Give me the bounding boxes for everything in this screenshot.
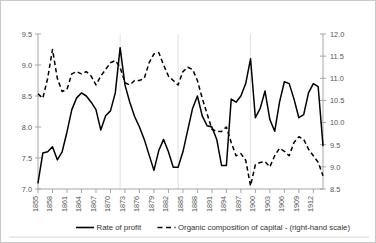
x-axis-tick-label: 1891: [205, 196, 214, 212]
x-axis-tick-label: 1903: [263, 196, 272, 212]
x-axis-tick-label: 1873: [118, 196, 127, 212]
left-axis-tick-label: 8.5: [22, 92, 32, 101]
right-axis-tick-label: 8.5: [330, 185, 340, 194]
x-axis-tick-label: 1879: [147, 196, 156, 212]
x-axis-tick-label: 1894: [219, 196, 228, 212]
right-axis-tick-label: 9.0: [330, 163, 340, 172]
right-axis-tick-label: 9.5: [330, 141, 340, 150]
x-axis-tick-label: 1861: [60, 196, 69, 212]
x-axis-tick-label: 1885: [176, 196, 185, 212]
series-line-organic-composition: [38, 50, 323, 186]
left-axis-tick-label: 7.5: [22, 154, 32, 163]
series-line-rate-of-profit: [38, 48, 323, 183]
x-axis-tick-label: 1870: [103, 196, 112, 212]
right-axis-tick-label: 10.0: [330, 118, 344, 127]
x-axis-tick-label: 1909: [292, 196, 301, 212]
x-axis-tick-label: 1888: [190, 196, 199, 212]
left-axis-tick-label: 9.5: [22, 30, 32, 39]
legend-item-label: Organic composition of capital - (right-…: [178, 223, 350, 232]
right-axis-tick-label: 11.5: [330, 52, 344, 61]
left-axis-tick-label: 9.0: [22, 61, 32, 70]
right-axis-tick-label: 12.0: [330, 30, 344, 39]
x-axis-tick-label: 1912: [306, 196, 315, 212]
x-axis-tick-label: 1855: [31, 196, 40, 212]
x-axis-tick-label: 1900: [248, 196, 257, 212]
x-axis-tick-label: 1882: [161, 196, 170, 212]
legend-item-label: Rate of profit: [97, 223, 142, 232]
chart-container: 9.59.08.58.07.57.012.011.511.010.510.09.…: [0, 0, 376, 243]
x-axis-tick-label: 1858: [45, 196, 54, 212]
x-axis-tick-label: 1897: [234, 196, 243, 212]
x-axis-tick-label: 1876: [132, 196, 141, 212]
x-axis-tick-label: 1867: [89, 196, 98, 212]
left-axis-tick-label: 7.0: [22, 185, 32, 194]
right-axis-tick-label: 11.0: [330, 74, 344, 83]
x-axis-tick-label: 1906: [277, 196, 286, 212]
right-axis-tick-label: 10.5: [330, 96, 344, 105]
x-axis-tick-label: 1864: [74, 196, 83, 212]
line-chart: 9.59.08.58.07.57.012.011.511.010.510.09.…: [1, 1, 376, 243]
left-axis-tick-label: 8.0: [22, 123, 32, 132]
